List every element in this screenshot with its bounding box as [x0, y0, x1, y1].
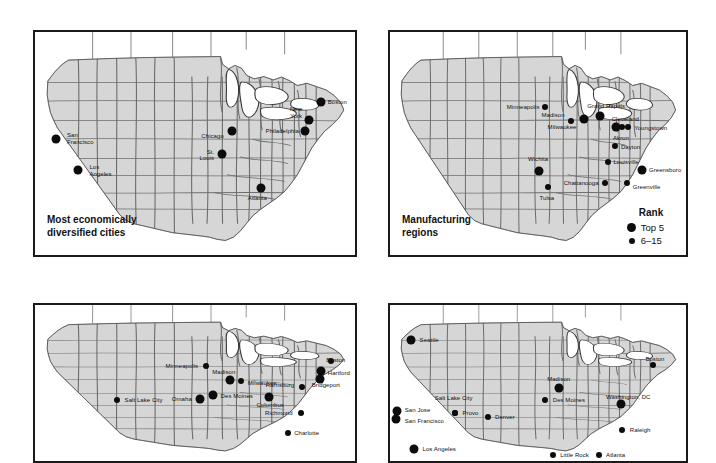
rank-legend: Rank Top 56–15 — [625, 207, 664, 247]
map-label-san-francisco: San Francisco — [67, 132, 94, 145]
map-point-los-angeles — [74, 166, 83, 175]
map-label-boston: Boston — [328, 99, 347, 106]
map-point-grand-rapids — [596, 111, 605, 120]
map-point-omaha — [195, 394, 204, 403]
map-label-philadelphia: Philadelphia — [266, 128, 299, 135]
legend-rows: Top 56–15 — [625, 221, 664, 247]
map-label-san-jose: San Jose — [405, 407, 431, 414]
map-point-des-moines — [542, 397, 548, 403]
map-point-atlanta — [256, 184, 265, 193]
map-point-seattle — [406, 336, 415, 345]
legend-item-label: 6–15 — [639, 235, 662, 246]
map-label-los-angeles: Los Angeles — [89, 165, 111, 178]
map-label-des-moines: Des Moines — [553, 397, 585, 404]
map-label-tulsa: Tulsa — [540, 195, 555, 202]
map-point-madison — [554, 383, 563, 392]
map-label-cleveland: Cleveland — [612, 116, 639, 123]
map-label-dayton: Dayton — [621, 144, 640, 151]
map-point-hartford — [317, 367, 326, 376]
panel-title: Most economically diversified cities — [47, 214, 136, 239]
map-label-des-moines: Des Moines — [221, 393, 253, 400]
map-point-harrisburg — [299, 384, 305, 390]
panel-title: Manufacturing regions — [402, 214, 471, 239]
map-label-milwaukee: Milwaukee — [548, 123, 577, 130]
map-label-little-rock: Little Rock — [560, 451, 589, 458]
map-point-san-francisco — [391, 414, 400, 423]
legend-item: Top 5 — [625, 221, 664, 234]
map-point-new-york — [304, 116, 313, 125]
map-point-raleigh — [619, 427, 625, 433]
map-point-little-rock — [550, 452, 556, 458]
map-point-san-francisco — [51, 135, 60, 144]
map-point-chicago — [227, 127, 236, 136]
legend-dot-icon — [625, 223, 639, 232]
map-point-milwaukee — [579, 114, 588, 123]
map-point-columbus — [264, 393, 273, 402]
map-label-hartford: Hartford — [328, 370, 350, 377]
map-point-atlanta — [596, 452, 602, 458]
map-label-new-york: New York — [290, 107, 302, 120]
legend-dot-icon — [625, 238, 639, 244]
map-label-boston: Boston — [326, 356, 345, 363]
map-point-dayton — [612, 143, 618, 149]
map-label-san-francisco: San Francisco — [405, 418, 444, 425]
map-panel-fastest-growing: SeattleSan JoseSan FranciscoLos AngelesS… — [388, 303, 688, 463]
map-label-richmond: Richmond — [265, 409, 293, 416]
map-label-omaha: Omaha — [172, 395, 192, 402]
map-label-salt-lake-city: Salt Lake City — [125, 397, 163, 404]
map-point-greensboro — [637, 166, 646, 175]
map-label-seattle: Seattle — [420, 337, 439, 344]
map-point-milwaukee — [238, 378, 244, 384]
map-point-salt-lake-city — [114, 397, 120, 403]
map-point-tulsa — [545, 184, 551, 190]
map-label-columbus: Columbus — [256, 402, 284, 409]
legend-item: 6–15 — [625, 234, 664, 247]
map-label-youngstown: Youngstown — [634, 125, 667, 132]
map-point-denver — [485, 414, 491, 420]
map-point-minneapolis — [542, 104, 548, 110]
map-point-chattanooga — [602, 180, 608, 186]
map-label-louisville: Louisville — [613, 159, 638, 166]
map-point-charlotte — [285, 430, 291, 436]
map-label-minneapolis: Minneapolis — [507, 103, 540, 110]
map-point-boston — [650, 362, 656, 368]
map-point-greenville — [624, 180, 630, 186]
map-point-st-louis — [218, 149, 227, 158]
map-point-wichita — [535, 167, 544, 176]
map-label-denver: Denver — [495, 414, 515, 421]
map-label-chicago: Chicago — [201, 132, 223, 139]
map-point-akron — [619, 124, 625, 130]
map-label-washington-dc: Washington, DC — [606, 394, 650, 401]
map-label-raleigh: Raleigh — [630, 427, 651, 434]
map-panel-best-performing-mid: Salt Lake CityMinneapolisMadisonMilwauke… — [33, 303, 357, 463]
map-point-youngstown — [625, 124, 631, 130]
map-label-akron: Akron — [613, 135, 629, 142]
point-layer: Salt Lake CityMinneapolisMadisonMilwauke… — [35, 305, 355, 461]
map-point-madison — [226, 375, 235, 384]
map-label-greensboro: Greensboro — [649, 167, 681, 174]
map-point-washington-dc — [616, 400, 625, 409]
map-label-grand-rapids: Grand Rapids — [587, 102, 625, 109]
map-label-minneapolis: Minneapolis — [166, 363, 199, 370]
map-label-wichita: Wichita — [528, 156, 548, 163]
map-label-madison: Madison — [542, 111, 565, 118]
map-point-minneapolis — [203, 363, 209, 369]
map-point-philadelphia — [301, 127, 310, 136]
legend-title: Rank — [625, 207, 664, 218]
legend-item-label: Top 5 — [639, 222, 664, 233]
map-point-richmond — [298, 410, 304, 416]
map-panel-manufacturing: MinneapolisMadisonMilwaukeeGrand RapidsC… — [388, 30, 688, 257]
map-point-los-angeles — [409, 444, 418, 453]
map-label-charlotte: Charlotte — [294, 430, 319, 437]
point-layer: SeattleSan JoseSan FranciscoLos AngelesS… — [390, 305, 686, 461]
map-point-provo — [452, 410, 458, 416]
map-label-atlanta: Atlanta — [606, 451, 625, 458]
map-label-provo: Provo — [463, 409, 479, 416]
map-label-madison: Madison — [547, 376, 570, 383]
map-label-chattanooga: Chattanooga — [564, 179, 599, 186]
map-label-boston: Boston — [645, 356, 664, 363]
map-label-atlanta: Atlanta — [248, 195, 267, 202]
map-label-los-angeles: Los Angeles — [423, 445, 456, 452]
map-label-bridgeport: Bridgeport — [312, 382, 340, 389]
